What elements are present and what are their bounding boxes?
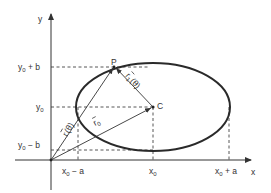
ellipse-diagram: y x y0 + b y0 y0 − b x0 − a x0 x0 + a P … bbox=[0, 0, 271, 193]
vector-r-theta bbox=[51, 68, 113, 160]
svg-text:r0: r0 bbox=[91, 116, 102, 129]
svg-text:r(θ): r(θ) bbox=[60, 121, 76, 138]
y-axis-label: y bbox=[38, 14, 43, 24]
y-tick-y0-plus-b: y0 + b bbox=[18, 62, 40, 73]
svg-text:r1(θ): r1(θ) bbox=[123, 71, 143, 92]
x-tick-x0-plus-a: x0 + a bbox=[215, 166, 237, 177]
label-r1-theta: r1(θ) bbox=[123, 71, 143, 92]
center-point-c bbox=[151, 105, 154, 108]
x-axis-label: x bbox=[251, 167, 256, 177]
label-r-theta: r(θ) bbox=[60, 121, 76, 138]
point-p-label: P bbox=[111, 57, 117, 67]
x-tick-x0-minus-a: x0 − a bbox=[62, 166, 84, 177]
y-tick-y0: y0 bbox=[36, 102, 44, 113]
origin-point bbox=[50, 159, 53, 162]
y-tick-y0-minus-b: y0 − b bbox=[18, 140, 40, 151]
x-tick-x0: x0 bbox=[149, 166, 157, 177]
label-r0: r0 bbox=[91, 116, 102, 129]
point-c-label: C bbox=[157, 101, 163, 111]
